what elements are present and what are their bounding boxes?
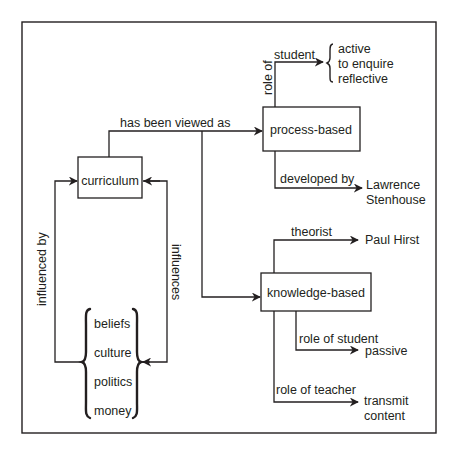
node-student-traits: active to enquire reflective xyxy=(327,42,394,86)
edge-developed-by: developed by Lawrence Stenhouse xyxy=(275,151,426,207)
influence-item: culture xyxy=(94,346,132,360)
influence-item: beliefs xyxy=(94,317,130,331)
edge-label-has-been-viewed-as: has been viewed as xyxy=(120,116,231,130)
edge-role-of-student: role of student passive xyxy=(296,311,407,358)
edge-label-theorist: theorist xyxy=(291,225,333,239)
node-influences-group: beliefs culture politics money xyxy=(82,309,141,418)
node-knowledge-based-label: knowledge-based xyxy=(267,286,365,300)
edge-role-of-student-process: role of student xyxy=(261,48,323,107)
left-brace-icon xyxy=(82,309,90,418)
edge-label-influenced-by: influenced by xyxy=(35,232,49,306)
edge-role-of-teacher: role of teacher transmit content xyxy=(274,311,409,423)
edge-theorist: theorist Paul Hirst xyxy=(274,225,420,273)
node-transmit-content-line1: transmit xyxy=(364,394,409,408)
left-brace-icon xyxy=(327,44,333,82)
edge-label-student: student xyxy=(274,48,316,62)
student-trait: to enquire xyxy=(338,57,394,71)
node-process-based: process-based xyxy=(263,107,360,151)
node-lawrence-stenhouse-line1: Lawrence xyxy=(366,178,420,192)
edge-label-influences: influences xyxy=(169,244,183,300)
edge-label-role-of: role of xyxy=(261,60,275,95)
node-process-based-label: process-based xyxy=(270,123,352,137)
curriculum-concept-map: has been viewed as curriculum influenced… xyxy=(0,0,455,456)
edge-label-developed-by: developed by xyxy=(280,172,355,186)
node-transmit-content-line2: content xyxy=(364,409,406,423)
node-paul-hirst: Paul Hirst xyxy=(365,233,420,247)
student-trait: reflective xyxy=(338,72,388,86)
influence-item: politics xyxy=(94,375,132,389)
edge-label-role-of-teacher: role of teacher xyxy=(276,383,356,397)
node-curriculum: curriculum xyxy=(78,157,142,198)
right-brace-icon xyxy=(133,309,141,418)
student-trait: active xyxy=(338,42,371,56)
edge-has-been-viewed-as: has been viewed as xyxy=(109,116,262,297)
edge-influenced-by: influenced by xyxy=(35,181,83,362)
node-lawrence-stenhouse-line2: Stenhouse xyxy=(366,193,426,207)
node-curriculum-label: curriculum xyxy=(81,174,139,188)
influence-item: money xyxy=(94,404,132,418)
edge-influences: influences xyxy=(142,181,183,362)
node-knowledge-based: knowledge-based xyxy=(261,273,371,311)
node-passive: passive xyxy=(365,344,407,358)
